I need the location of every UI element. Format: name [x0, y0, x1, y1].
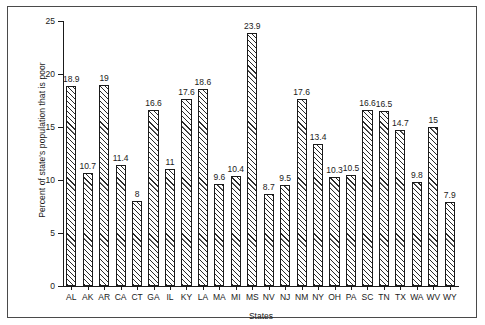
x-tick-label: CA [112, 292, 128, 302]
x-tick-label: KY [178, 292, 194, 302]
bar-item[interactable]: 16.6 [148, 21, 158, 286]
bar[interactable] [428, 127, 438, 286]
bar-item[interactable]: 19 [99, 21, 109, 286]
bar[interactable] [379, 111, 389, 286]
bar-item[interactable]: 11.4 [116, 21, 126, 286]
y-tick-label: 15 [46, 122, 55, 132]
x-tick-label: NM [293, 292, 309, 302]
bar-item[interactable]: 13.4 [313, 21, 323, 286]
bar[interactable] [346, 175, 356, 286]
bar-item[interactable]: 9.8 [412, 21, 422, 286]
bar[interactable] [165, 169, 175, 286]
bar-value-label: 10.3 [326, 165, 343, 175]
bar[interactable] [445, 202, 455, 286]
x-tick-mark [186, 286, 187, 290]
bar[interactable] [116, 165, 126, 286]
bar[interactable] [280, 185, 290, 286]
bar[interactable] [198, 89, 208, 286]
bar-item[interactable]: 23.9 [247, 21, 257, 286]
bar-item[interactable]: 9.5 [280, 21, 290, 286]
bar-series: 18.910.71911.4816.61117.618.69.610.423.9… [63, 21, 458, 286]
x-tick-mark [269, 286, 270, 290]
x-tick-mark [121, 286, 122, 290]
bar-item[interactable]: 9.6 [214, 21, 224, 286]
bar-item[interactable]: 15 [428, 21, 438, 286]
x-tick-mark [417, 286, 418, 290]
bar-item[interactable]: 11 [165, 21, 175, 286]
bar-value-label: 15 [429, 115, 438, 125]
bar-value-label: 10.7 [79, 161, 96, 171]
bar[interactable] [412, 182, 422, 286]
bar[interactable] [181, 99, 191, 286]
bar[interactable] [395, 130, 405, 286]
bar-value-label: 13.4 [310, 132, 327, 142]
bar-item[interactable]: 10.4 [231, 21, 241, 286]
x-tick-label: AR [96, 292, 112, 302]
bar[interactable] [264, 194, 274, 286]
bar-item[interactable]: 8 [132, 21, 142, 286]
x-tick-label: AK [79, 292, 95, 302]
x-tick-label: PA [343, 292, 359, 302]
bar-value-label: 16.6 [359, 98, 376, 108]
bar[interactable] [297, 99, 307, 286]
x-tick-label: AL [63, 292, 79, 302]
x-tick-mark [88, 286, 89, 290]
x-tick-mark [400, 286, 401, 290]
x-tick-mark [302, 286, 303, 290]
x-tick-mark [351, 286, 352, 290]
bar-item[interactable]: 10.5 [346, 21, 356, 286]
bar-value-label: 14.7 [392, 118, 409, 128]
x-tick-label: GA [145, 292, 161, 302]
bar-value-label: 11 [166, 157, 175, 167]
y-tick-label: 20 [46, 69, 55, 79]
x-tick-label: MS [244, 292, 260, 302]
x-tick-label: WA [409, 292, 425, 302]
bar[interactable] [132, 201, 142, 286]
x-tick-mark [137, 286, 138, 290]
x-tick-mark [367, 286, 368, 290]
bar-item[interactable]: 18.9 [66, 21, 76, 286]
bar-item[interactable]: 10.3 [329, 21, 339, 286]
bar-item[interactable]: 18.6 [198, 21, 208, 286]
bar[interactable] [83, 173, 93, 286]
bar[interactable] [362, 110, 372, 286]
x-tick-label: TX [392, 292, 408, 302]
bar[interactable] [313, 144, 323, 286]
bar-value-label: 9.6 [213, 172, 225, 182]
x-tick-label: WY [442, 292, 458, 302]
bar[interactable] [231, 176, 241, 286]
bar[interactable] [329, 177, 339, 286]
bar-item[interactable]: 16.5 [379, 21, 389, 286]
bar-value-label: 16.5 [376, 99, 393, 109]
y-tick-label: 0 [50, 281, 55, 291]
x-tick-label: MI [228, 292, 244, 302]
x-tick-mark [154, 286, 155, 290]
x-tick-mark [450, 286, 451, 290]
x-tick-label: TN [376, 292, 392, 302]
bar[interactable] [247, 33, 257, 286]
bar-item[interactable]: 17.6 [181, 21, 191, 286]
y-tick-label: 10 [46, 175, 55, 185]
bar-value-label: 9.8 [411, 170, 423, 180]
plot-area: 18.910.71911.4816.61117.618.69.610.423.9… [63, 21, 458, 286]
bar-value-label: 17.6 [178, 87, 195, 97]
bar-item[interactable]: 17.6 [297, 21, 307, 286]
bar[interactable] [148, 110, 158, 286]
x-tick-label: OH [326, 292, 342, 302]
bar[interactable] [66, 86, 76, 286]
y-tick-label: 5 [50, 228, 55, 238]
bar[interactable] [99, 85, 109, 286]
bar-item[interactable]: 16.6 [362, 21, 372, 286]
bar-item[interactable]: 14.7 [395, 21, 405, 286]
x-tick-mark [285, 286, 286, 290]
bar-item[interactable]: 10.7 [83, 21, 93, 286]
x-tick-label: SC [359, 292, 375, 302]
y-tick-label: 25 [46, 16, 55, 26]
bar-value-label: 16.6 [145, 98, 162, 108]
bar-item[interactable]: 7.9 [445, 21, 455, 286]
bar[interactable] [214, 184, 224, 286]
chart-frame: Percent of state's population that is po… [7, 6, 477, 318]
bar-item[interactable]: 8.7 [264, 21, 274, 286]
x-tick-mark [104, 286, 105, 290]
x-tick-mark [203, 286, 204, 290]
